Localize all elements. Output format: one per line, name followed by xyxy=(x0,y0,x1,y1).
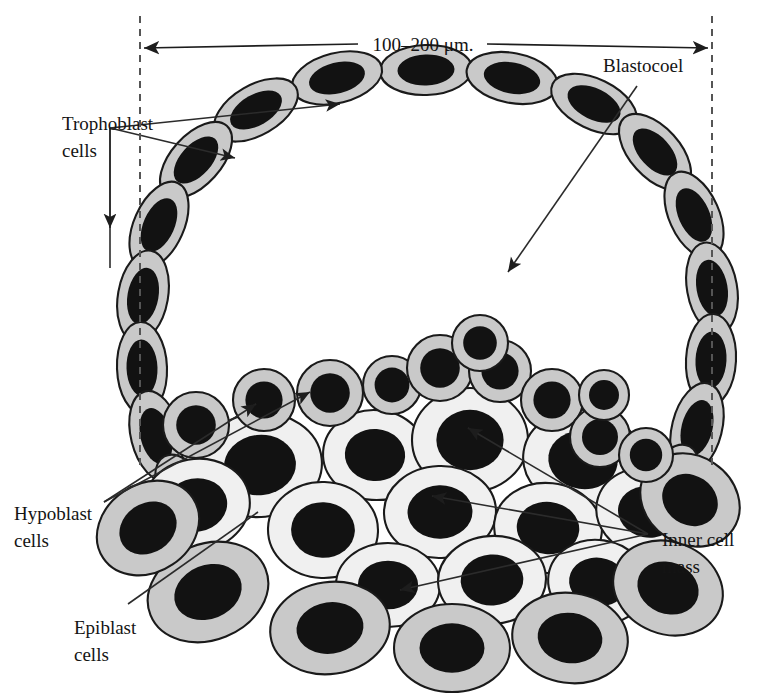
hypoblast-cell xyxy=(233,369,295,431)
epiblast-cell-nucleus xyxy=(420,623,485,672)
label-blastocoel: Blastocoel xyxy=(603,55,683,76)
hypoblast-cell-nucleus xyxy=(375,368,410,403)
trophoblast-cell xyxy=(462,45,562,112)
inner-cell-mass-cell-nucleus xyxy=(436,410,503,470)
scale-arrow-right xyxy=(487,44,708,48)
label-hypoblast-line1: Hypoblast xyxy=(14,503,93,524)
diagram-canvas: Trophoblast cells Blastocoel Hypoblast c… xyxy=(0,0,784,696)
label-trophoblast-line2: cells xyxy=(62,140,97,161)
label-epiblast-line2: cells xyxy=(74,644,109,665)
hypoblast-cell xyxy=(579,370,629,420)
hypoblast-cell-nucleus xyxy=(533,381,570,418)
hypoblast-cell-nucleus xyxy=(176,405,216,445)
hypoblast-cell-nucleus xyxy=(463,326,497,360)
blastocyst-diagram: Trophoblast cells Blastocoel Hypoblast c… xyxy=(0,0,784,696)
label-hypoblast-line2: cells xyxy=(14,530,49,551)
label-inner-cell-mass-line1: Inner cell xyxy=(662,529,734,550)
hypoblast-cell-nucleus xyxy=(630,439,662,471)
hypoblast-cell-nucleus xyxy=(589,380,619,410)
hypoblast-cell-nucleus xyxy=(245,381,282,418)
hypoblast-cell-nucleus xyxy=(310,373,350,413)
label-inner-cell-mass-line2: mass xyxy=(662,556,700,577)
label-epiblast-line1: Epiblast xyxy=(74,617,137,638)
hypoblast-cell-nucleus xyxy=(582,419,618,455)
hypoblast-cell xyxy=(619,428,673,482)
epiblast-cell xyxy=(394,604,510,692)
scale-arrow-left xyxy=(144,44,358,48)
scale-bar-label: 100–200 μm. xyxy=(373,34,474,55)
hypoblast-cell xyxy=(452,315,508,371)
hypoblast-cell xyxy=(163,392,229,458)
